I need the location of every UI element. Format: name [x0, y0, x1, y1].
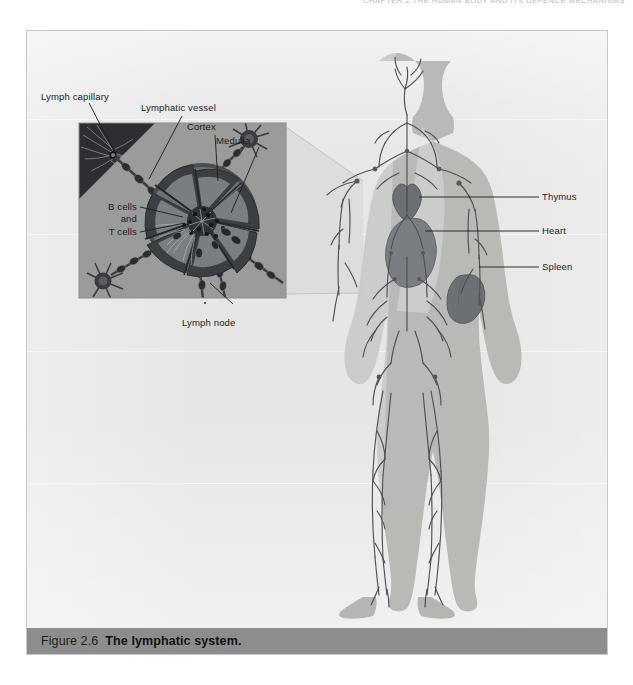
- caption-number: Figure 2.6: [41, 634, 98, 648]
- human-body-figure: [327, 31, 522, 630]
- label-and: and: [73, 213, 137, 225]
- label-lymph-capillary: Lymph capillary: [41, 91, 109, 103]
- label-cortex: Cortex: [187, 121, 216, 133]
- label-heart: Heart: [542, 225, 566, 237]
- label-thymus: Thymus: [542, 191, 577, 203]
- caption-title: The lymphatic system.: [105, 634, 241, 648]
- right-foot: [417, 597, 455, 619]
- figure-caption-bar: Figure 2.6 The lymphatic system.: [27, 628, 607, 654]
- label-b-cells: B cells: [73, 201, 137, 213]
- lymphatic-system-illustration: [27, 31, 607, 630]
- label-lymph-node: Lymph node: [182, 317, 235, 329]
- zoom-cone: [286, 127, 363, 294]
- figure-card: Lymph capillary Lymphatic vessel Cortex …: [26, 30, 608, 655]
- running-head: CHAPTER 2 THE HUMAN BODY AND ITS DEFENCE…: [340, 0, 625, 8]
- label-t-cells: T cells: [73, 226, 137, 238]
- left-foot: [339, 597, 377, 619]
- label-spleen: Spleen: [542, 261, 572, 273]
- label-lymphatic-vessel: Lymphatic vessel: [141, 102, 216, 114]
- label-medulla: Medulla: [216, 135, 250, 147]
- leader-dot: [204, 302, 206, 304]
- lymph-node-cutaway: [145, 163, 259, 277]
